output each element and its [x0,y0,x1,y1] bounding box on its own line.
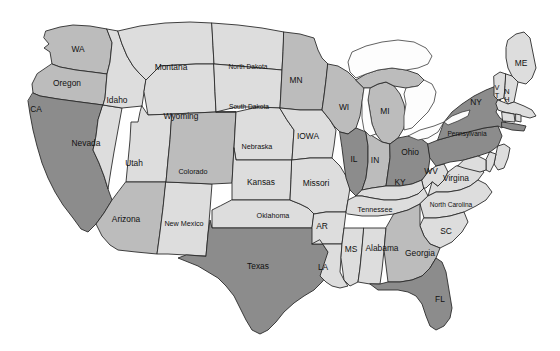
state-NJ[interactable] [494,144,510,170]
us-map-container: WAOregonCANevadaIdahoMontanaWyomingUtahA… [0,0,560,351]
state-MN[interactable] [280,32,328,110]
state-AR[interactable] [312,212,346,244]
lake-huron-erie-icon [404,80,436,130]
state-WY[interactable] [144,64,216,115]
state-UT[interactable] [126,106,172,182]
state-DE[interactable] [486,152,496,172]
state-RI[interactable] [516,114,521,122]
state-NY-long-island[interactable] [502,122,526,131]
state-CT[interactable] [502,112,515,122]
states-layer [28,22,536,334]
state-NM[interactable] [157,182,212,256]
state-ND[interactable] [212,23,284,70]
state-SD[interactable] [214,64,282,112]
state-OK[interactable] [212,200,314,228]
state-CO[interactable] [166,112,236,184]
us-choropleth-map: WAOregonCANevadaIdahoMontanaWyomingUtahA… [0,0,560,351]
